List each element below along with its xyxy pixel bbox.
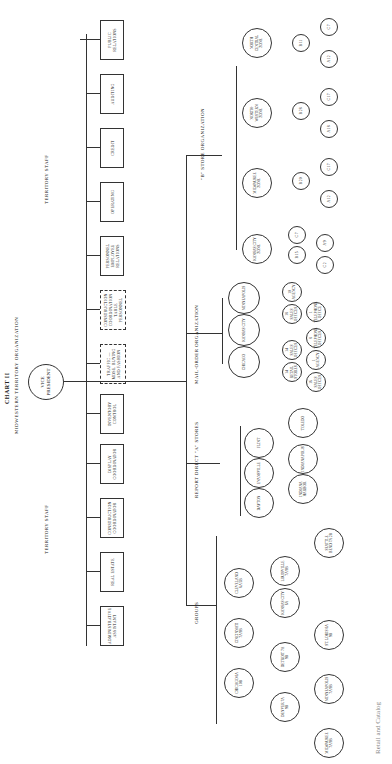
- group-seattle-bend: Seattle Bend 7A 2B: [314, 528, 344, 558]
- connector: [86, 363, 100, 364]
- ops-stem: [86, 381, 186, 382]
- mail-order-spine: [222, 298, 223, 364]
- group-label: Cleveland 6A 5B: [235, 571, 244, 595]
- mail-order-kansas-city: Kansas City: [228, 314, 260, 346]
- sub-label: 14 Sales Offices: [285, 343, 298, 357]
- staff-construction-coordinator: Construction Coordinator: [100, 498, 124, 538]
- connector: [86, 309, 100, 310]
- sub-label: 10 Agency: [288, 285, 297, 300]
- staff-label: Public Relations: [107, 22, 117, 58]
- connector: [80, 39, 100, 40]
- connector: [86, 571, 100, 572]
- group-cleveland: Cleveland 6A 5B: [224, 568, 254, 598]
- connector: [86, 517, 100, 518]
- b-sub: C 17: [320, 88, 338, 106]
- a-stores-label: Report Direct "A" Stores: [194, 422, 199, 498]
- staff-label: Traffic — Mdse. Buying and Fashion: [106, 346, 121, 382]
- group-chicago: Chicago 6A 10B: [224, 668, 254, 698]
- a-store-indianapolis: Indianapolis: [288, 444, 318, 474]
- staff-inventory-control: Inventory Control: [100, 394, 124, 434]
- mo-sub: 14 Retail Stores: [282, 362, 302, 382]
- org-chart-page: CHART II Midwestern Territory Organizati…: [0, 0, 392, 764]
- group-label: Denver 7A 9B: [281, 695, 290, 719]
- b-sub: C 17: [320, 158, 338, 176]
- sub-label: C 17: [327, 94, 331, 101]
- sub-label: B 15: [295, 252, 299, 259]
- groups-label: Groups: [194, 602, 199, 624]
- staff-auditing: Auditing: [100, 74, 124, 114]
- group-label: Detroit 7A 9B: [281, 645, 290, 669]
- connector: [86, 93, 100, 94]
- group-louisville: Louisville 7A 9B: [270, 556, 300, 586]
- b-sub: B 15: [288, 246, 306, 264]
- connector: [64, 381, 86, 382]
- staff-personnel: Personnel Employee Relations: [100, 236, 124, 276]
- territory-staff-label-right: Territory Staff: [44, 155, 49, 204]
- sub-label: 18 Sales Offices: [285, 307, 298, 321]
- vice-president-label: Vice President: [40, 367, 52, 397]
- group-label: Seattle Bend 7A 2B: [325, 531, 334, 555]
- sub-label: 1 Telephone Office: [309, 302, 322, 323]
- connector: [86, 413, 100, 414]
- b-sub: B 11: [292, 34, 310, 52]
- chart-title: CHART II: [4, 372, 10, 404]
- ops-spine: [186, 156, 187, 606]
- staff-label: Auditing: [110, 83, 115, 104]
- connector: [186, 333, 222, 334]
- group-label: Kansas City 6A: [281, 591, 290, 615]
- group-detroit: Detroit 7A 9B: [270, 642, 300, 672]
- sub-label: B 28: [299, 108, 303, 115]
- staff-label: Real Estate: [110, 558, 115, 586]
- mo-sub: 1 Telephone Office: [306, 302, 326, 322]
- connector: [86, 147, 100, 148]
- mail-order-minneapolis: Minneapolis: [228, 282, 260, 314]
- store-label: Toledo: [301, 416, 305, 430]
- mo-sub: 1 Agency: [306, 350, 326, 370]
- store-label: Flint: [257, 438, 261, 448]
- mo-sub: 10 Agency: [282, 282, 302, 302]
- staff-display-coordinator: Display Coordinator: [100, 444, 124, 484]
- b-sub: C 7: [288, 226, 306, 244]
- group-label: St. Louis 6A 9B: [325, 623, 334, 647]
- connector: [186, 605, 216, 606]
- staff-label: Operating: [110, 190, 115, 214]
- a-store-indiana-harbor: Indiana Harbor: [288, 474, 318, 504]
- b-zone-milwaukee: Milwaukee Zone: [242, 168, 272, 198]
- staff-credit: Credit: [100, 128, 124, 168]
- staff-label: Construction Coordinator: [107, 500, 117, 536]
- b-stores-label: "B" Store Organization: [200, 108, 205, 180]
- b-sub: A 12: [320, 190, 338, 208]
- group-denver: Denver 7A 9B: [270, 692, 300, 722]
- a-stores-spine: [240, 426, 241, 516]
- sub-label: 14 Retail Stores: [285, 365, 298, 379]
- sub-label: 1 Agency: [312, 353, 321, 368]
- group-label: Minneapolis 7A 9B: [325, 677, 334, 701]
- b-zone-northwestern: North-western Zone: [242, 98, 272, 128]
- group-st-louis: St. Louis 6A 9B: [314, 620, 344, 650]
- group-label: Cincinnati 7A 9B: [235, 621, 244, 645]
- chart-subtitle: Midwestern Territory Organization: [14, 317, 19, 434]
- sub-label: A 12: [327, 196, 331, 203]
- mail-order-label: Mail-Order Organization: [194, 305, 199, 384]
- staff-operating: Operating: [100, 182, 124, 222]
- sub-label: B 11: [299, 40, 303, 47]
- sub-label: C 2: [323, 262, 327, 267]
- staff-real-estate: Real Estate: [100, 552, 124, 592]
- store-label: Indiana Harbor: [299, 477, 308, 501]
- group-label: Milwaukee 7A 9B: [325, 731, 334, 755]
- zone-label: Kansas City Zone: [253, 237, 262, 261]
- connector: [86, 463, 100, 464]
- b-sub: B 28: [292, 102, 310, 120]
- mail-order-chicago: Chicago: [228, 346, 260, 378]
- b-zone-kansas-city: Kansas City Zone: [242, 234, 272, 264]
- zone-label: Milwaukee Zone: [253, 171, 262, 195]
- staff-label: Administrative Assistant: [107, 608, 117, 645]
- b-sub: C 2: [316, 256, 334, 274]
- b-sub: B 20: [292, 172, 310, 190]
- group-cincinnati: Cincinnati 7A 9B: [224, 618, 254, 648]
- group-kansas-city: Kansas City 6A: [270, 588, 300, 618]
- sub-label: C 17: [327, 164, 331, 171]
- sub-label: 8 Telephone Offices: [309, 328, 322, 349]
- mo-sub: 16 Sales Offices: [306, 372, 326, 392]
- groups-spine: [216, 536, 217, 724]
